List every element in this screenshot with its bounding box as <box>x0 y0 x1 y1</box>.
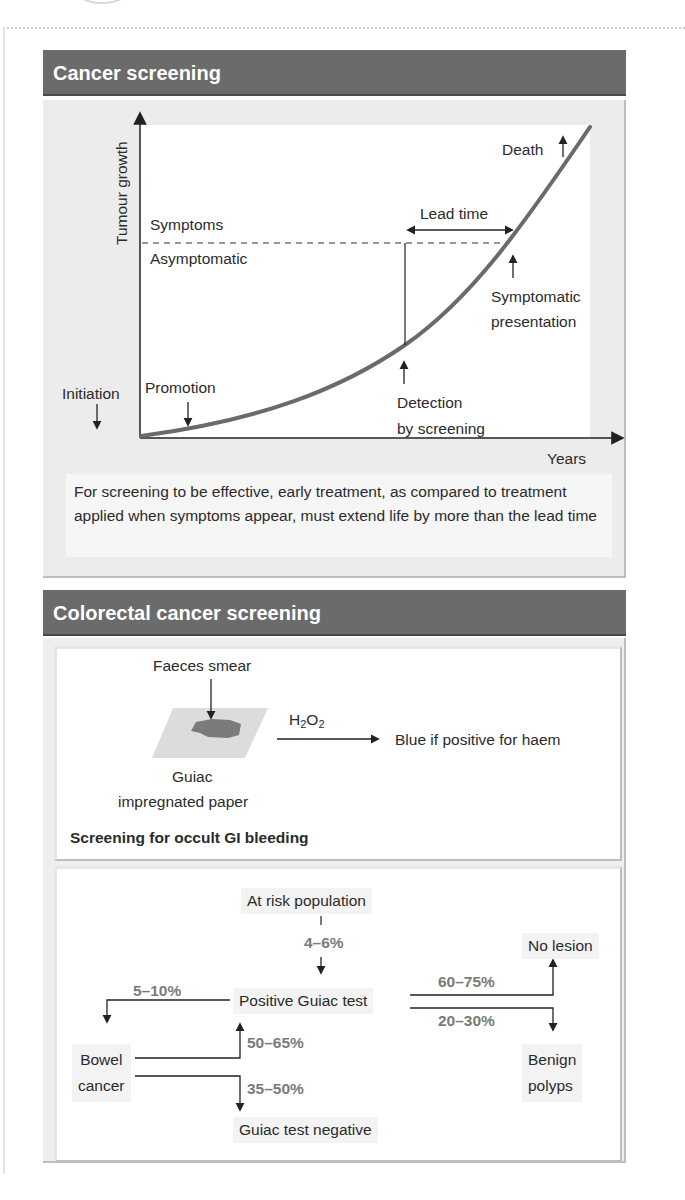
no-lesion-node: No lesion <box>522 933 599 959</box>
benign-polyps-node: Benignpolyps <box>522 1044 582 1102</box>
positive-result-label: Blue if positive for haem <box>395 730 560 750</box>
pct-35-50: 35–50% <box>247 1080 304 1098</box>
faeces-smear-label: Faeces smear <box>153 656 251 676</box>
guiac-paper-label-1: Guiac <box>172 767 213 787</box>
pct-5-10: 5–10% <box>133 982 181 1000</box>
guiac-negative-node: Guiac test negative <box>233 1117 378 1143</box>
pct-50-65: 50–65% <box>247 1034 304 1052</box>
bowel-cancer-node: Bowelcancer <box>72 1044 131 1102</box>
pct-20-30: 20–30% <box>438 1012 495 1030</box>
h2o2-label: H2O2 <box>289 710 325 734</box>
occult-bleeding-caption: Screening for occult GI bleeding <box>70 828 309 848</box>
positive-guiac-node: Positive Guiac test <box>233 988 373 1014</box>
at-risk-population-node: At risk population <box>241 888 372 914</box>
guiac-paper-label-2: impregnated paper <box>118 792 248 812</box>
pct-60-75: 60–75% <box>438 973 495 991</box>
pct-4-6: 4–6% <box>304 934 344 952</box>
